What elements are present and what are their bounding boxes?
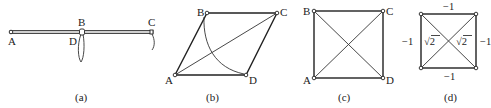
- node-d: [244, 73, 248, 77]
- label-c: C: [280, 6, 287, 18]
- panel-d: −1 −1 −1 −1 √2 √2 (d): [402, 1, 491, 104]
- hook-curve: [152, 34, 154, 50]
- weight-diag-left: √2: [424, 36, 435, 47]
- node-bottom-left: [419, 66, 423, 70]
- weight-top: −1: [443, 1, 454, 12]
- figure: A B C D (a) B C A D (b) B C A D (c): [0, 0, 491, 108]
- node-c: [275, 11, 279, 15]
- node-b: [80, 29, 85, 35]
- label-b: B: [303, 5, 310, 17]
- caption-c: (c): [338, 91, 351, 104]
- caption-d: (d): [444, 91, 457, 104]
- caption-a: (a): [75, 91, 88, 104]
- label-d: D: [249, 74, 257, 86]
- weight-diag-right: √2: [456, 36, 467, 47]
- label-a: A: [303, 74, 311, 86]
- label-c: C: [148, 16, 155, 28]
- panel-a: A B C D (a): [8, 16, 155, 104]
- label-a: A: [8, 35, 16, 47]
- node-b: [205, 11, 209, 15]
- label-d: D: [69, 35, 77, 47]
- caption-b: (b): [206, 91, 219, 104]
- label-b: B: [197, 6, 204, 18]
- node-d: [381, 76, 385, 80]
- panel-c: B C A D (c): [303, 5, 394, 104]
- node-top-right: [474, 12, 478, 16]
- hanging-loop: [78, 34, 84, 62]
- weight-left: −1: [402, 36, 413, 47]
- node-c: [150, 30, 153, 34]
- node-bottom-right: [474, 66, 478, 70]
- node-top-left: [419, 12, 423, 16]
- node-c: [381, 9, 385, 13]
- weight-bottom: −1: [444, 71, 455, 82]
- label-b: B: [78, 16, 85, 28]
- node-a: [173, 73, 177, 77]
- node-a: [9, 30, 13, 34]
- label-d: D: [386, 74, 394, 86]
- panel-b: B C A D (b): [165, 6, 287, 104]
- node-a: [312, 76, 316, 80]
- label-c: C: [386, 5, 393, 17]
- weight-right: −1: [480, 36, 491, 47]
- node-b: [312, 9, 316, 13]
- label-a: A: [165, 74, 173, 86]
